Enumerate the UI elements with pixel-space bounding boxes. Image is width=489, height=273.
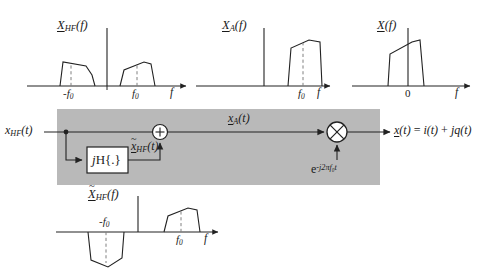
- plot-x-hf-axes: [27, 28, 186, 90]
- plot-x-baseband-title-arg: (f): [385, 18, 397, 32]
- hilbert-block-operator: H{.}: [96, 152, 121, 167]
- tick-pos-f0-idx: 0: [135, 92, 139, 101]
- plot-x-a-tick-f0: f0: [298, 88, 305, 100]
- output-i-arg: (t): [427, 123, 438, 137]
- local-oscillator-label: e-j2πf₀t: [311, 163, 337, 175]
- plot-x-hf-tick-neg-f0: -f0: [63, 88, 73, 100]
- plot-x-hf-hilbert-tick-pos-f0: f0: [176, 234, 183, 246]
- plot-x-hf-title: XHF(f): [57, 19, 88, 33]
- plot-x-baseband-axes: [352, 28, 470, 86]
- plot-x-hf-hilbert-tick-neg-f0: -f0: [99, 216, 109, 228]
- tick-f0-idx: 0: [301, 92, 305, 101]
- output-lhs-arg: (t): [399, 123, 410, 137]
- plot-x-hf-title-main: X: [57, 18, 65, 32]
- hilbert-output-label: ~xHF(t): [131, 140, 159, 154]
- plot-x-baseband-tick-origin: 0: [405, 88, 411, 99]
- tick4-neg-idx: 0: [106, 220, 110, 229]
- tick-neg-f0-sym: -f: [63, 87, 70, 99]
- plot-x-baseband-lobe: [388, 40, 424, 86]
- plot-x-hf-hilbert-title-sub: HF: [96, 192, 107, 202]
- plot-x-baseband-title: X(f): [377, 19, 396, 32]
- hilbert-output-sub: HF: [136, 145, 147, 154]
- hilbert-block-label[interactable]: jH{.}: [92, 153, 121, 166]
- plot-x-a-lobe-positive: [288, 40, 322, 86]
- output-signal-label: x(t) = i(t) + jq(t): [394, 124, 472, 136]
- lo-exponent: -j2πf₀t: [316, 163, 337, 172]
- output-equals: =: [411, 123, 424, 137]
- input-signal-arg: (t): [21, 123, 32, 137]
- output-q-arg: (t): [460, 123, 471, 137]
- hilbert-output-arg: (t): [147, 139, 158, 153]
- analytic-signal-label: xA(t): [228, 112, 250, 126]
- plot-x-a-title-arg: (f): [235, 18, 247, 32]
- input-signal-label: xHF(t): [5, 124, 33, 138]
- tick4-neg-sym: -f: [99, 215, 106, 227]
- plot-x-hf-hilbert-tilde: ~: [89, 181, 95, 192]
- plot-x-hf-hilbert-axes: [56, 196, 218, 232]
- plot-x-hf-hilbert-title-arg: (f): [107, 187, 119, 201]
- plot-x-hf-xlabel: f: [170, 87, 173, 99]
- plot-x-hf-tick-pos-f0: f0: [132, 88, 139, 100]
- plot-x-a-xlabel: f: [317, 87, 320, 99]
- tick-neg-f0-idx: 0: [70, 92, 74, 101]
- plot-x-hf-title-arg: (f): [76, 18, 88, 32]
- plot-x-baseband-title-main: X: [377, 18, 385, 32]
- plot-x-hf-hilbert-title: ~XHF(f): [88, 188, 119, 202]
- output-plus: +: [438, 123, 451, 137]
- plot-x-hf-lobe-negative: [60, 62, 95, 86]
- plot-x-hf-hilbert-lobe-positive: [164, 208, 200, 232]
- tick4-pos-idx: 0: [179, 238, 183, 247]
- plot-x-a-title-main: X: [222, 18, 230, 32]
- hilbert-output-tilde: ~: [131, 134, 137, 144]
- wire-to-hilbert: [66, 132, 82, 160]
- plot-x-hf-hilbert-xlabel: f: [204, 233, 207, 245]
- plot-x-a-axes: [196, 28, 330, 86]
- input-signal-sub: HF: [10, 129, 21, 138]
- plot-x-a-title: XA(f): [222, 19, 247, 33]
- plot-x-hf-title-sub: HF: [65, 23, 76, 33]
- figure-canvas: XHF(f) -f0 f0 f XA(f) f0 f X(f) 0 f xHF(…: [0, 0, 489, 273]
- plot-x-baseband-xlabel: f: [455, 87, 458, 99]
- analytic-signal-arg: (t): [238, 111, 249, 125]
